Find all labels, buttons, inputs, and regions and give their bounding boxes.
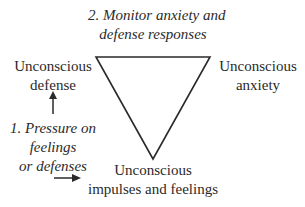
pressure-label: 1. Pressure on feelings or defenses bbox=[8, 119, 98, 176]
pressure-label-line2: feelings bbox=[8, 138, 98, 157]
node-impulses: Unconscious impulses and feelings bbox=[88, 161, 218, 199]
pressure-label-line3: or defenses bbox=[8, 157, 98, 176]
node-impulses-line2: impulses and feelings bbox=[88, 180, 218, 199]
monitor-label: 2. Monitor anxiety and defense responses bbox=[88, 6, 218, 44]
monitor-label-line2: defense responses bbox=[88, 25, 218, 44]
node-defense: Unconscious defense bbox=[8, 57, 98, 95]
monitor-label-line1: 2. Monitor anxiety and bbox=[88, 6, 218, 25]
node-defense-line1: Unconscious bbox=[8, 57, 98, 76]
node-anxiety-line2: anxiety bbox=[213, 76, 303, 95]
node-anxiety-line1: Unconscious bbox=[213, 57, 303, 76]
node-defense-line2: defense bbox=[8, 76, 98, 95]
node-anxiety: Unconscious anxiety bbox=[213, 57, 303, 95]
node-impulses-line1: Unconscious bbox=[88, 161, 218, 180]
pressure-label-line1: 1. Pressure on bbox=[8, 119, 98, 138]
triangle bbox=[96, 57, 210, 159]
